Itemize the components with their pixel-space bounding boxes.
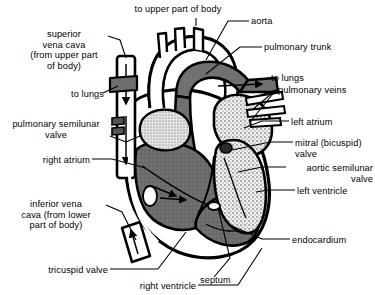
label-pulmonary-trunk: pulmonary trunk	[264, 42, 364, 53]
label-inferior-vena-cava: inferior vena cava (from lower part of b…	[6, 199, 106, 231]
label-superior-vena-cava: superior vena cava (from upper part of b…	[12, 29, 116, 71]
label-pulmonary-semilunar-valve: pulmonary semilunar valve	[2, 119, 110, 140]
label-aorta: aorta	[251, 16, 311, 27]
heart-diagram-page: to upper part of body aorta superior ven…	[0, 0, 375, 295]
label-pulmonary-veins: pulmonary veins	[278, 85, 373, 96]
label-right-ventricle: right ventricle	[106, 281, 196, 292]
label-mitral-bicuspid-valve: mitral (bicuspid) valve	[295, 138, 375, 159]
label-to-lungs-left: to lungs	[38, 89, 104, 100]
label-right-atrium: right atrium	[12, 155, 90, 166]
label-tricuspid-valve: tricuspid valve	[20, 265, 108, 276]
label-to-upper-part-of-body: to upper part of body	[118, 4, 238, 15]
label-left-ventricle: left ventricle	[297, 186, 375, 197]
pulmonary-semilunar-valve-region	[140, 110, 191, 151]
label-aortic-semilunar-valve: aortic semilunar valve	[288, 163, 373, 184]
label-endocardium: endocardium	[292, 235, 374, 246]
label-to-lungs-right: to lungs	[271, 73, 331, 84]
label-septum: septum	[200, 275, 256, 286]
label-left-atrium: left atrium	[291, 117, 361, 128]
